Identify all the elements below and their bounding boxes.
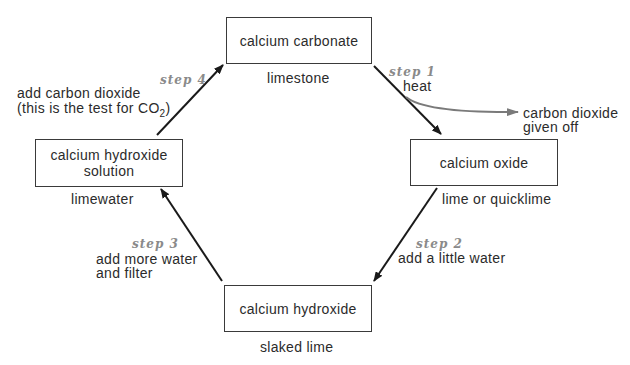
calcium-hydroxide-box: calcium hydroxide [224, 285, 372, 332]
limewater-label: limewater [71, 191, 134, 207]
step3-action-line2: and filter [96, 265, 153, 281]
limestone-cycle-diagram: calcium carbonate limestone calcium oxid… [0, 0, 630, 365]
step4-action-line2: (this is the test for CO2) [17, 100, 170, 116]
calcium-hydroxide-solution-box: calcium hydroxide solution [35, 139, 183, 187]
co2-given-off-arrow [406, 97, 518, 112]
calcium-carbonate-box: calcium carbonate [226, 17, 372, 64]
step2-label: step 2 [416, 237, 463, 251]
lime-or-quicklime-label: lime or quicklime [442, 191, 551, 207]
calcium-oxide-box: calcium oxide [410, 139, 558, 186]
step2-arrow [374, 188, 437, 281]
step4-action-line2-suffix: ) [165, 100, 170, 116]
calcium-hydroxide-solution-line2: solution [84, 163, 135, 179]
calcium-hydroxide-label: calcium hydroxide [239, 301, 356, 317]
calcium-hydroxide-solution-line1: calcium hydroxide [50, 147, 167, 163]
step4-action-line2-prefix: (this is the test for CO [17, 100, 160, 116]
limestone-label: limestone [267, 70, 330, 86]
slaked-lime-label: slaked lime [260, 339, 333, 355]
step4-label: step 4 [160, 73, 207, 87]
calcium-carbonate-label: calcium carbonate [240, 33, 359, 49]
step1-action: heat [403, 78, 431, 94]
step1-label: step 1 [389, 65, 436, 79]
step3-arrow [161, 189, 222, 281]
step3-label: step 3 [132, 237, 179, 251]
calcium-oxide-label: calcium oxide [440, 155, 529, 171]
co2-given-off-line2: given off [523, 119, 578, 135]
step2-action: add a little water [398, 250, 505, 266]
step4-action-line1: add carbon dioxide [17, 85, 141, 101]
